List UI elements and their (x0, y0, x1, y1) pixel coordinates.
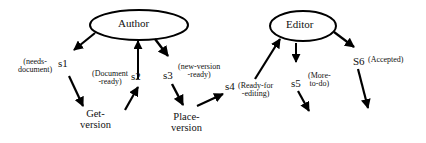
s6-state-label: S6 (353, 56, 365, 68)
edge-author-s1 (74, 33, 95, 50)
s1-state-label: s1 (58, 58, 68, 70)
s3-description: (new-version -ready) (178, 63, 220, 80)
edge-placeversion-s4 (197, 94, 223, 106)
place-version-line2: version (171, 122, 202, 133)
s5-state-label: s5 (291, 78, 301, 90)
place-version-line1: Place- (171, 111, 202, 122)
s2-state-label: s2 (131, 71, 141, 83)
get-version-task: Get- version (80, 108, 111, 130)
s3-desc-line2: -ready) (178, 71, 220, 79)
edge-s4-editor (255, 39, 280, 79)
edge-getversion-s2 (125, 87, 138, 110)
editor-node-label: Editor (286, 19, 314, 31)
s5-desc-line2: to-do) (308, 80, 331, 88)
s4-description: (Ready-for -editing) (238, 82, 273, 99)
s3-state-label: s3 (163, 70, 173, 82)
s4-state-label: s4 (225, 81, 235, 93)
edge-editor-s6 (334, 32, 354, 47)
get-version-line2: version (80, 119, 111, 130)
s1-description: (needs- document) (18, 58, 52, 75)
place-version-task: Place- version (171, 111, 202, 133)
edge-author-s3 (155, 39, 168, 56)
edge-s6-continue (358, 69, 368, 108)
s2-description: (Document -ready) (92, 70, 128, 87)
edge-s3-placeversion (172, 84, 183, 105)
author-node-label: Author (118, 18, 149, 30)
get-version-line1: Get- (80, 108, 111, 119)
s4-desc-line2: -editing) (238, 90, 273, 98)
s5-description: (More- to-do) (308, 72, 331, 89)
edge-s1-getversion (69, 76, 83, 106)
s2-desc-line2: -ready) (92, 78, 128, 86)
s6-description: (Accepted) (368, 56, 404, 64)
edge-s5-continue (298, 91, 309, 111)
s1-desc-line2: document) (18, 66, 52, 74)
